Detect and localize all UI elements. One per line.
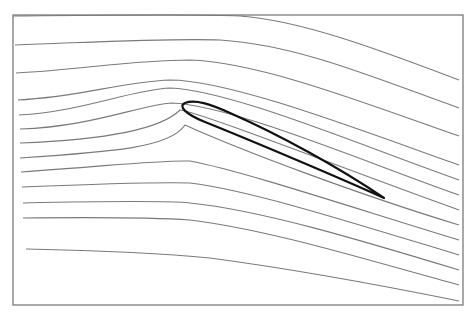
streamline: [23, 218, 459, 285]
streamline: [22, 183, 459, 255]
streamline: [26, 249, 459, 301]
streamline: [18, 80, 459, 165]
streamlines-group: [13, 15, 459, 301]
streamline: [19, 88, 459, 180]
streamline: [15, 39, 459, 108]
streamline: [20, 125, 459, 225]
streamline: [23, 202, 459, 271]
streamline-diagram: [0, 0, 474, 331]
streamline: [16, 60, 459, 136]
streamline: [20, 110, 459, 210]
streamline: [13, 15, 459, 80]
